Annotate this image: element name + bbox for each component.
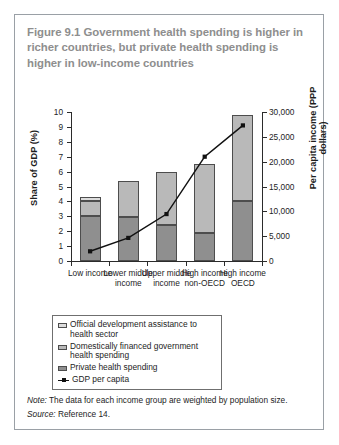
legend-swatch-private <box>58 366 67 371</box>
legend-label: Domestically financed government health … <box>70 342 216 362</box>
gdp-marker <box>164 212 168 216</box>
legend-item-oda[interactable]: Official development assistance to healt… <box>58 320 216 340</box>
figure-title: Figure 9.1 Government health spending is… <box>27 25 315 71</box>
legend-swatch-gov <box>58 345 67 350</box>
gdp-marker <box>241 123 245 127</box>
chart-legend: Official development assistance to healt… <box>52 315 222 390</box>
gdp-line-path <box>90 125 243 251</box>
legend-item-private[interactable]: Private health spending <box>58 363 216 373</box>
gdp-marker <box>126 236 130 240</box>
gdp-per-capita-line <box>15 103 325 313</box>
line-marker-icon <box>58 377 69 384</box>
legend-label: Official development assistance to healt… <box>70 320 216 340</box>
note-label: Note: <box>27 395 47 405</box>
figure-note: Note: The data for each income group are… <box>27 395 317 405</box>
legend-label: Private health spending <box>70 363 158 373</box>
chart-plot-area: Share of GDP (%) Per capita income (PPP … <box>15 103 325 313</box>
figure-frame: Figure 9.1 Government health spending is… <box>14 14 324 430</box>
gdp-marker <box>88 249 92 253</box>
gdp-marker <box>203 155 207 159</box>
source-text: Reference 14. <box>56 409 110 419</box>
source-label: Source: <box>27 409 56 419</box>
legend-label: GDP per capita <box>72 375 129 385</box>
figure-source: Source: Reference 14. <box>27 409 317 419</box>
note-text: The data for each income group are weigh… <box>47 395 288 405</box>
legend-swatch-oda <box>58 323 67 328</box>
legend-item-gdp[interactable]: GDP per capita <box>58 375 216 385</box>
legend-item-gov[interactable]: Domestically financed government health … <box>58 342 216 362</box>
